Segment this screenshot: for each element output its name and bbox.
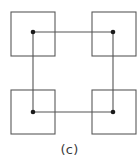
figure-diagram [0, 0, 139, 164]
node-top-right [111, 30, 116, 35]
figure-panel: (c) [0, 0, 139, 164]
figure-background [0, 0, 139, 164]
node-bottom-left [31, 110, 36, 115]
node-top-left [31, 30, 36, 35]
figure-caption-label: (c) [0, 143, 139, 156]
node-bottom-right [111, 110, 116, 115]
